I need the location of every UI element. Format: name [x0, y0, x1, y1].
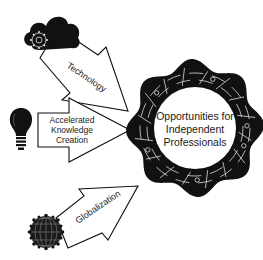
opportunities-badge: Opportunities for Independent Profession…: [126, 59, 263, 197]
diagram: Technology Accelerated Knowledge Creatio…: [0, 0, 263, 260]
center-label-line-1: Opportunities for: [156, 110, 234, 122]
globe-icon: [28, 214, 65, 251]
knowledge-label-line-1: Accelerated: [50, 115, 95, 125]
lightbulb-icon: [10, 108, 32, 150]
knowledge-label-line-2: Knowledge: [51, 125, 93, 135]
globalization-arrow: Globalization: [56, 186, 138, 248]
knowledge-label-line-3: Creation: [56, 135, 88, 145]
center-label-line-3: Professionals: [163, 136, 226, 148]
cloud-gear-icon: [24, 17, 79, 50]
center-label-line-2: Independent: [166, 123, 224, 135]
